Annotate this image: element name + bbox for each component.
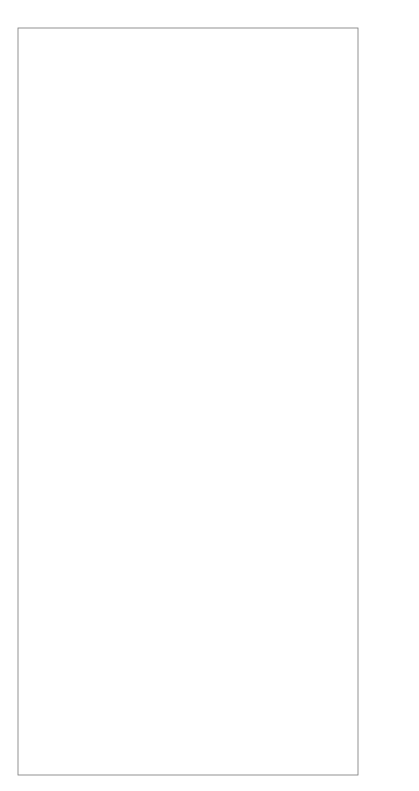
figure-canvas — [0, 0, 419, 791]
figure-caption — [364, 390, 380, 400]
outer-frame — [18, 28, 358, 775]
